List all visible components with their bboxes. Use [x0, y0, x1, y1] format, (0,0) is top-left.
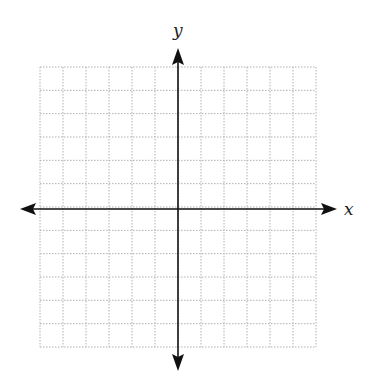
- coordinate-plane: x y: [0, 0, 374, 382]
- y-axis-label: y: [172, 20, 183, 40]
- x-axis-label: x: [344, 199, 354, 219]
